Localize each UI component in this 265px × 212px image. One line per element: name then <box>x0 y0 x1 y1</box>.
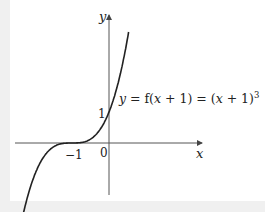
x-axis-label: x <box>196 146 204 161</box>
cubic-curve <box>22 32 129 212</box>
origin-label: 0 <box>100 146 108 160</box>
y-axis-label: y <box>98 9 107 24</box>
cubic-graph: y x 0 −1 1 y = f(x + 1) = (x + 1)3 <box>0 0 265 212</box>
x-tick-label-neg1: −1 <box>65 148 83 162</box>
y-tick-label-1: 1 <box>98 107 106 121</box>
equation-label: y = f(x + 1) = (x + 1)3 <box>118 90 259 106</box>
